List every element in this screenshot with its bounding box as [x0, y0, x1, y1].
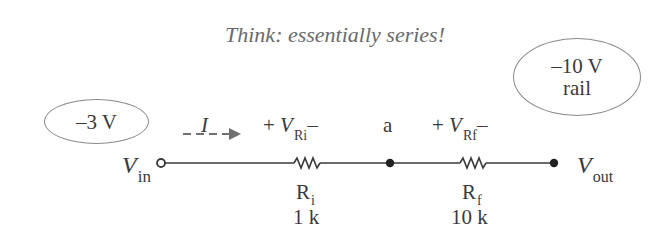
- vrf-label: + VRf–: [432, 113, 487, 138]
- current-arrow-icon: [183, 128, 241, 140]
- vin-label: Vin: [122, 152, 151, 179]
- vout-terminal-icon: [550, 159, 558, 167]
- vin-terminal-icon: [157, 159, 165, 167]
- rf-value-label: 10 k: [451, 205, 488, 230]
- ri-value-label: 1 k: [293, 205, 319, 230]
- node-a-dot-icon: [386, 159, 394, 167]
- vri-label: + VRi–: [263, 113, 318, 138]
- current-label: I: [201, 113, 208, 138]
- resistor-rf-icon: [460, 158, 486, 168]
- ri-name-label: Ri: [296, 180, 315, 205]
- circuit-schematic: [0, 0, 670, 250]
- resistor-ri-icon: [294, 158, 320, 168]
- rf-name-label: Rf: [462, 180, 482, 205]
- node-a-label: a: [383, 113, 392, 138]
- vout-label: Vout: [577, 152, 613, 179]
